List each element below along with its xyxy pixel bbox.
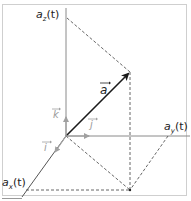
unit-vector-i [55, 136, 66, 152]
vector-diagram [0, 0, 191, 201]
label-ay: ay(t) [164, 120, 188, 135]
label-unit-k: k [53, 109, 59, 120]
vector-a [66, 74, 128, 136]
label-ax: ax(t) [2, 176, 26, 191]
projection-point [129, 189, 131, 191]
label-az: az(t) [36, 8, 59, 23]
bottom-rule [2, 198, 22, 199]
label-unit-j: j [90, 119, 93, 130]
label-vector-a: a [100, 83, 107, 97]
label-unit-i: i [44, 142, 47, 153]
